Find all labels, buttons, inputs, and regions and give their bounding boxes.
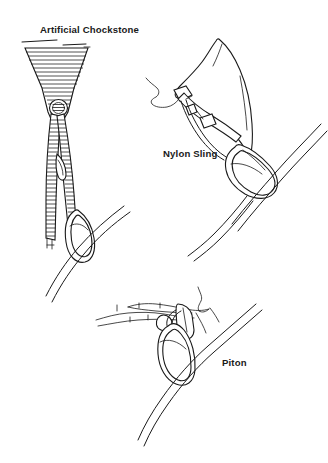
label-artificial-chockstone: Artificial Chockstone — [40, 24, 139, 35]
label-nylon-sling: Nylon Sling — [163, 148, 217, 159]
climbing-anchors-figure: Artificial Chockstone — [0, 0, 328, 463]
label-piton: Piton — [222, 357, 247, 368]
illustration-canvas: Artificial Chockstone — [0, 0, 328, 463]
